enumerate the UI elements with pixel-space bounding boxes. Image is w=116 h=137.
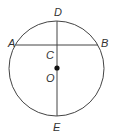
label-O: O bbox=[46, 72, 55, 84]
label-B: B bbox=[101, 37, 108, 49]
label-A: A bbox=[7, 37, 15, 49]
label-E: E bbox=[53, 121, 61, 133]
circle-diagram: D A B C O E bbox=[0, 0, 116, 137]
label-C: C bbox=[46, 49, 54, 61]
label-D: D bbox=[54, 6, 62, 18]
center-point-O bbox=[54, 65, 59, 70]
